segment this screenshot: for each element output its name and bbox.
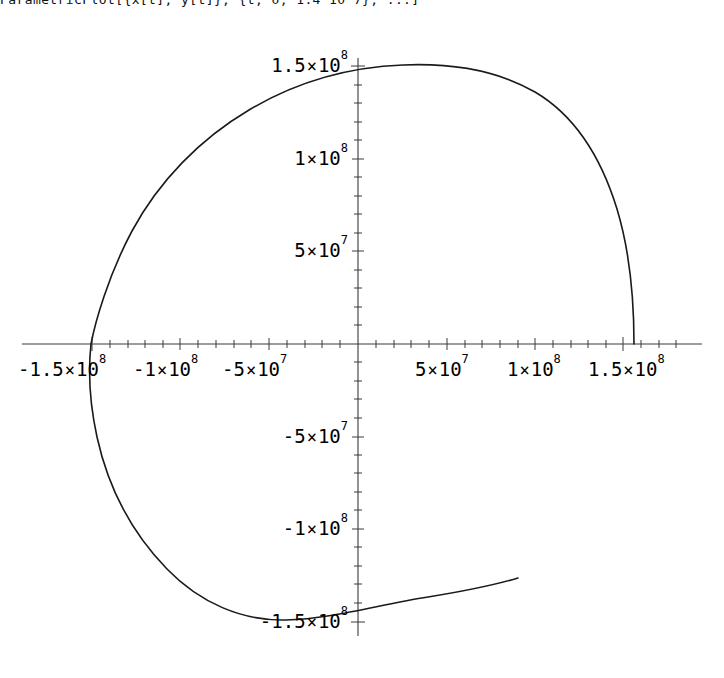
times-sign: × [306, 427, 318, 447]
times-sign: × [306, 149, 318, 169]
times-sign: × [306, 56, 318, 76]
y-tick-mantissa: -1.5 [260, 610, 306, 632]
y-tick-exponent: 7 [341, 233, 348, 247]
times-sign: × [306, 612, 318, 632]
x-tick-exponent: 7 [280, 352, 287, 366]
x-tick-mantissa: -5 [222, 358, 245, 380]
times-sign: × [156, 360, 168, 380]
times-sign: × [306, 241, 318, 261]
y-tick-mantissa: -1 [283, 517, 306, 539]
y-tick-label-1e8: 1×108 [248, 149, 348, 168]
times-sign: × [518, 360, 530, 380]
plot-canvas [0, 0, 724, 678]
plot-window: ParametricPlot[{x[t], y[t]}, {t, 0, 1.4 … [0, 0, 724, 678]
y-tick-exponent: 8 [341, 511, 348, 525]
x-tick-mantissa: 1.5 [588, 358, 622, 380]
times-sign: × [622, 360, 634, 380]
trajectory-curve [90, 65, 634, 620]
x-tick-mantissa: 5 [415, 358, 426, 380]
y-tick-exponent: 8 [341, 48, 348, 62]
x-tick-mantissa: -1 [133, 358, 156, 380]
x-tick-exponent: 8 [99, 352, 106, 366]
y-tick-mantissa: 1.5 [271, 54, 305, 76]
x-tick-label-minus1.5e8: -1.5×108 [18, 360, 106, 379]
y-tick-label-minus1e8: -1×108 [238, 519, 348, 538]
y-tick-exponent: 8 [341, 604, 348, 618]
x-tick-mantissa: 1 [507, 358, 518, 380]
times-sign: × [306, 519, 318, 539]
y-tick-label-5e7: 5×107 [248, 241, 348, 260]
y-tick-label-minus1.5e8: -1.5×108 [218, 612, 348, 631]
times-sign: × [64, 360, 76, 380]
x-tick-label-minus1e8: -1×108 [133, 360, 198, 379]
x-tick-exponent: 8 [657, 352, 664, 366]
x-tick-exponent: 8 [554, 352, 561, 366]
y-tick-label-1.5e8: 1.5×108 [248, 56, 348, 75]
x-tick-label-5e7: 5×107 [415, 360, 469, 379]
x-tick-label-1.5e8: 1.5×108 [588, 360, 665, 379]
y-tick-exponent: 7 [341, 419, 348, 433]
x-tick-label-minus5e7: -5×107 [222, 360, 287, 379]
y-tick-exponent: 8 [341, 141, 348, 155]
y-tick-label-minus5e7: -5×107 [238, 427, 348, 446]
parametric-plot: 1.5×108 1×108 5×107 -5×107 -1×108 -1.5×1… [0, 0, 724, 678]
x-tick-exponent: 7 [462, 352, 469, 366]
times-sign: × [426, 360, 438, 380]
y-tick-mantissa: 1 [294, 147, 305, 169]
y-tick-mantissa: -5 [283, 425, 306, 447]
x-tick-label-1e8: 1×108 [507, 360, 561, 379]
x-tick-mantissa: -1.5 [18, 358, 64, 380]
y-tick-mantissa: 5 [294, 239, 305, 261]
times-sign: × [245, 360, 257, 380]
x-tick-exponent: 8 [191, 352, 198, 366]
